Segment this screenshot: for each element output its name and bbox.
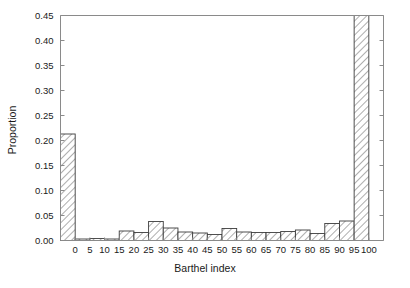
x-tick-label: 50	[217, 244, 228, 255]
x-tick-label: 5	[87, 244, 92, 255]
bar	[207, 235, 222, 241]
x-tick-label: 20	[129, 244, 140, 255]
bar	[281, 232, 296, 241]
bar	[222, 229, 237, 241]
x-tick-label: 70	[275, 244, 286, 255]
x-tick-label: 45	[202, 244, 213, 255]
x-tick-label: 65	[261, 244, 272, 255]
x-axis-title: Barthel index	[174, 262, 236, 274]
x-tick-label: 30	[158, 244, 169, 255]
bar	[61, 134, 76, 241]
y-tick-label: 0.05	[35, 210, 54, 221]
x-tick-label: 95	[349, 244, 360, 255]
x-tick-label: 0	[73, 244, 78, 255]
x-tick-label: 10	[99, 244, 110, 255]
bar	[149, 222, 164, 241]
bar	[310, 234, 325, 241]
y-tick-label: 0.40	[35, 35, 54, 46]
y-tick-label: 0.10	[35, 185, 54, 196]
y-tick-label: 0.00	[35, 235, 54, 246]
bar	[237, 232, 252, 241]
x-tick-label: 55	[231, 244, 242, 255]
x-tick-label: 85	[319, 244, 330, 255]
bar	[178, 232, 193, 241]
x-tick-label: 75	[290, 244, 301, 255]
bar	[193, 233, 208, 241]
y-tick-label: 0.25	[35, 110, 54, 121]
y-axis-title: Proportion	[6, 106, 18, 155]
x-tick-label: 25	[143, 244, 154, 255]
x-tick-label: 15	[114, 244, 125, 255]
bar	[119, 231, 134, 241]
bar	[251, 233, 266, 241]
chart-canvas: 0510152025303540455055606570758085909510…	[0, 0, 410, 288]
bar	[354, 16, 369, 241]
y-tick-label: 0.15	[35, 160, 54, 171]
bar	[295, 230, 310, 241]
y-tick-label: 0.30	[35, 85, 54, 96]
bar	[134, 233, 149, 241]
histogram-figure: 0510152025303540455055606570758085909510…	[0, 0, 410, 288]
bar	[266, 233, 281, 241]
y-tick-label: 0.45	[35, 10, 54, 21]
x-tick-label: 90	[334, 244, 345, 255]
bar	[163, 228, 178, 241]
x-tick-label: 35	[173, 244, 184, 255]
y-tick-label: 0.20	[35, 135, 54, 146]
x-tick-label: 60	[246, 244, 257, 255]
x-tick-label: 80	[305, 244, 316, 255]
bar	[339, 221, 354, 241]
x-tick-label: 40	[187, 244, 198, 255]
bar	[325, 224, 340, 241]
y-tick-label: 0.35	[35, 60, 54, 71]
x-tick-label: 100	[361, 244, 377, 255]
